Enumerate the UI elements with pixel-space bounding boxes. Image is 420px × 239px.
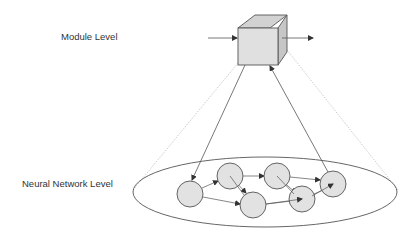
down-link-arrow [192, 65, 245, 180]
network-nodes [177, 163, 346, 218]
up-link-arrow [270, 66, 328, 172]
neuron-node [177, 181, 203, 207]
network-ellipse [133, 157, 397, 227]
diagram-canvas [0, 0, 420, 239]
neuron-node [240, 192, 266, 218]
module-cube [238, 15, 287, 65]
projection-lines [133, 50, 398, 190]
